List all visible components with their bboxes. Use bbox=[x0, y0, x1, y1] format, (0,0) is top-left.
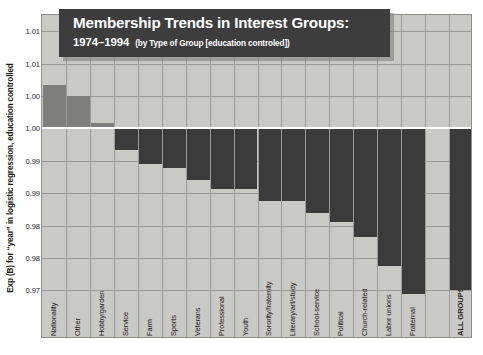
x-axis-label-cell bbox=[424, 270, 448, 338]
bar bbox=[378, 128, 401, 265]
x-axis-label-cell: Other bbox=[65, 270, 89, 338]
chart-title-years: 1974–1994 bbox=[73, 36, 129, 48]
bar bbox=[67, 96, 90, 128]
x-axis-tick-label: Farm bbox=[144, 319, 153, 336]
x-axis-label-cell: Literary/art/study bbox=[280, 270, 304, 338]
chart-figure: Exp (B) for “year” in logistic regressio… bbox=[0, 0, 483, 355]
y-axis-tick-label: 1.01 bbox=[18, 27, 40, 36]
x-axis-tick-label: Fraternal bbox=[408, 307, 417, 336]
x-axis-label-cell: Sports bbox=[161, 270, 185, 338]
y-axis-tick-label: 0.98 bbox=[18, 254, 40, 263]
chart-subtitle: (by Type of Group [education controled]) bbox=[135, 39, 290, 48]
gridline-horizontal bbox=[42, 64, 471, 65]
gridline-horizontal bbox=[42, 96, 471, 97]
chart-subtitle-wrap: 1974–1994 (by Type of Group [education c… bbox=[73, 36, 290, 48]
chart-title-banner: Membership Trends in Interest Groups: 19… bbox=[59, 9, 390, 57]
y-axis-tick-label: 0.99 bbox=[18, 189, 40, 198]
bar bbox=[43, 85, 66, 128]
x-axis-tick-label: Sports bbox=[168, 315, 177, 336]
x-axis-tick-label: Hobby/garden bbox=[96, 291, 105, 336]
x-axis-tick-label: Service bbox=[120, 312, 129, 336]
x-axis-tick-label: Labor unions bbox=[384, 294, 393, 336]
x-axis-tick-label: Veterans bbox=[192, 308, 201, 336]
bar bbox=[163, 128, 186, 168]
x-axis-label-cell: Youth bbox=[233, 270, 257, 338]
bar bbox=[259, 128, 282, 201]
y-axis-tick-label: 1.00 bbox=[18, 124, 40, 133]
bar bbox=[139, 128, 162, 164]
bar bbox=[282, 128, 305, 201]
bar bbox=[187, 128, 210, 179]
bar bbox=[402, 128, 425, 293]
x-axis-tick-label: School-service bbox=[312, 289, 321, 336]
y-axis-tick-label: 1.00 bbox=[18, 92, 40, 101]
x-axis-label-cell: Professional bbox=[209, 270, 233, 338]
bar bbox=[235, 128, 258, 189]
x-axis-tick-label: Youth bbox=[240, 318, 249, 336]
x-axis-tick-label: Political bbox=[336, 311, 345, 336]
x-axis-tick-label: Church-related bbox=[360, 289, 369, 336]
x-axis-tick-label: Nationality bbox=[48, 303, 57, 336]
y-axis-tick-label: 0.99 bbox=[18, 156, 40, 165]
x-axis-label-cell: Sorority/fraternity bbox=[257, 270, 281, 338]
x-axis-label-cell: Farm bbox=[137, 270, 161, 338]
y-axis-tick-label: 1.01 bbox=[18, 59, 40, 68]
x-axis-tick-label: ALL GROUPS bbox=[456, 287, 465, 336]
x-axis-tick-label: Professional bbox=[216, 297, 225, 336]
y-axis-tick-label: 0.98 bbox=[18, 221, 40, 230]
bar bbox=[211, 128, 234, 189]
y-axis-title: Exp (B) for “year” in logistic regressio… bbox=[6, 63, 15, 292]
x-axis-tick-label: Literary/art/study bbox=[288, 283, 297, 336]
x-axis-tick-label: Sorority/fraternity bbox=[264, 282, 273, 336]
bar bbox=[450, 128, 472, 289]
chart-title: Membership Trends in Interest Groups: bbox=[73, 14, 349, 31]
x-axis-label-cell: Political bbox=[328, 270, 352, 338]
x-axis-label-cell: Nationality bbox=[41, 270, 65, 338]
y-axis-tick-labels: 1.011.011.001.000.990.990.980.980.97 bbox=[18, 14, 40, 338]
y-axis-tick-label: 0.97 bbox=[18, 286, 40, 295]
x-axis-label-cell: Veterans bbox=[185, 270, 209, 338]
x-axis-label-cell: Service bbox=[113, 270, 137, 338]
x-axis-label-cell: Labor unions bbox=[376, 270, 400, 338]
x-axis-label-cell: School-service bbox=[304, 270, 328, 338]
x-axis-label-cell: Church-related bbox=[352, 270, 376, 338]
y-axis-title-wrap: Exp (B) for “year” in logistic regressio… bbox=[0, 60, 20, 295]
baseline-reference-line bbox=[42, 127, 471, 129]
bar bbox=[306, 128, 329, 212]
bar bbox=[330, 128, 353, 222]
bar bbox=[115, 128, 138, 149]
x-axis-tick-label: Other bbox=[72, 318, 81, 336]
bar bbox=[354, 128, 377, 236]
x-axis-label-cell: Hobby/garden bbox=[89, 270, 113, 338]
